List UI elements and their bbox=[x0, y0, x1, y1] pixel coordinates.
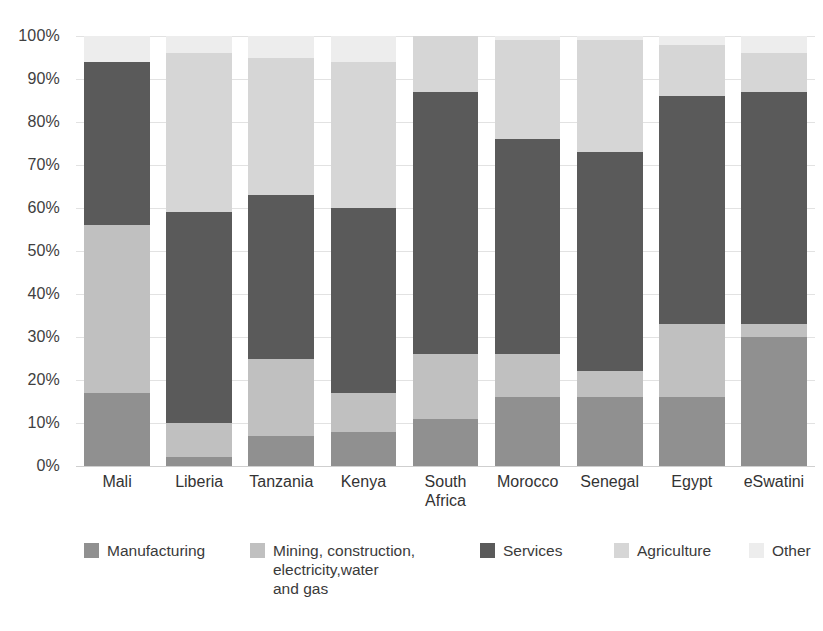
y-axis-tick-label: 50% bbox=[27, 242, 60, 260]
y-axis-tick-label: 20% bbox=[27, 371, 60, 389]
y-axis-tick-label: 30% bbox=[27, 328, 60, 346]
bar-segment[interactable] bbox=[84, 36, 150, 62]
bar-segment[interactable] bbox=[577, 371, 643, 397]
bar-group[interactable] bbox=[331, 36, 397, 466]
x-axis: MaliLiberiaTanzaniaKenyaSouth AfricaMoro… bbox=[76, 472, 815, 522]
legend-item[interactable]: Other bbox=[749, 541, 811, 560]
x-axis-tick-label: eSwatini bbox=[733, 472, 815, 491]
x-axis-tick-label: Tanzania bbox=[240, 472, 322, 491]
bar-segment[interactable] bbox=[495, 139, 561, 354]
bar-segment[interactable] bbox=[659, 397, 725, 466]
bar-segment[interactable] bbox=[741, 36, 807, 53]
legend-swatch-icon bbox=[480, 543, 495, 558]
bar-segment[interactable] bbox=[248, 436, 314, 466]
bar-segment[interactable] bbox=[741, 53, 807, 92]
legend-swatch-icon bbox=[614, 543, 629, 558]
bar-group[interactable] bbox=[659, 36, 725, 466]
x-axis-tick-label: South Africa bbox=[404, 472, 486, 510]
legend-swatch-icon bbox=[84, 543, 99, 558]
bar-segment[interactable] bbox=[495, 36, 561, 40]
bar-segment[interactable] bbox=[741, 92, 807, 324]
x-axis-tick-label: Egypt bbox=[651, 472, 733, 491]
chart-legend: ManufacturingMining, construction, elect… bbox=[84, 541, 814, 621]
bar-segment[interactable] bbox=[166, 53, 232, 212]
bar-segment[interactable] bbox=[413, 36, 479, 92]
bar-segment[interactable] bbox=[166, 212, 232, 423]
legend-item[interactable]: Mining, construction, electricity,water … bbox=[250, 541, 415, 598]
bar-group[interactable] bbox=[495, 36, 561, 466]
bar-segment[interactable] bbox=[495, 40, 561, 139]
bar-segment[interactable] bbox=[741, 324, 807, 337]
y-axis-tick-label: 60% bbox=[27, 199, 60, 217]
y-axis: 0%10%20%30%40%50%60%70%80%90%100% bbox=[0, 36, 70, 466]
bar-segment[interactable] bbox=[248, 359, 314, 436]
y-axis-tick-label: 80% bbox=[27, 113, 60, 131]
bar-segment[interactable] bbox=[413, 354, 479, 419]
bar-segment[interactable] bbox=[659, 36, 725, 45]
y-axis-tick-label: 10% bbox=[27, 414, 60, 432]
x-axis-tick-label: Senegal bbox=[569, 472, 651, 491]
bar-segment[interactable] bbox=[659, 45, 725, 97]
legend-item[interactable]: Services bbox=[480, 541, 562, 560]
bar-segment[interactable] bbox=[248, 58, 314, 196]
bar-segment[interactable] bbox=[331, 432, 397, 466]
bar-group[interactable] bbox=[166, 36, 232, 466]
bar-segment[interactable] bbox=[577, 397, 643, 466]
bar-segment[interactable] bbox=[84, 225, 150, 393]
bar-segment[interactable] bbox=[577, 36, 643, 40]
y-axis-tick-label: 90% bbox=[27, 70, 60, 88]
bar-group[interactable] bbox=[84, 36, 150, 466]
bar-segment[interactable] bbox=[331, 62, 397, 208]
legend-label: Mining, construction, electricity,water … bbox=[273, 541, 415, 598]
x-axis-tick-label: Kenya bbox=[322, 472, 404, 491]
bar-segment[interactable] bbox=[659, 324, 725, 397]
bar-group[interactable] bbox=[577, 36, 643, 466]
legend-label: Agriculture bbox=[637, 541, 711, 560]
legend-label: Other bbox=[772, 541, 811, 560]
legend-item[interactable]: Manufacturing bbox=[84, 541, 205, 560]
legend-label: Services bbox=[503, 541, 562, 560]
bar-segment[interactable] bbox=[413, 419, 479, 466]
bar-segment[interactable] bbox=[741, 337, 807, 466]
y-axis-tick-label: 100% bbox=[18, 27, 60, 45]
bar-group[interactable] bbox=[741, 36, 807, 466]
bar-segment[interactable] bbox=[331, 393, 397, 432]
bar-segment[interactable] bbox=[413, 92, 479, 354]
bar-segment[interactable] bbox=[331, 208, 397, 393]
bar-segment[interactable] bbox=[577, 40, 643, 152]
bar-segment[interactable] bbox=[248, 195, 314, 358]
bar-segment[interactable] bbox=[166, 36, 232, 53]
bar-segment[interactable] bbox=[84, 393, 150, 466]
legend-swatch-icon bbox=[250, 543, 265, 558]
y-axis-tick-label: 70% bbox=[27, 156, 60, 174]
bar-segment[interactable] bbox=[577, 152, 643, 371]
stacked-bar-chart: 0%10%20%30%40%50%60%70%80%90%100% MaliLi… bbox=[0, 0, 823, 631]
plot-area bbox=[76, 36, 815, 466]
bar-segment[interactable] bbox=[248, 36, 314, 58]
bar-segment[interactable] bbox=[495, 397, 561, 466]
bar-segment[interactable] bbox=[84, 62, 150, 225]
x-axis-tick-label: Morocco bbox=[487, 472, 569, 491]
x-axis-tick-label: Liberia bbox=[158, 472, 240, 491]
gridline bbox=[76, 466, 815, 467]
legend-item[interactable]: Agriculture bbox=[614, 541, 711, 560]
bar-segment[interactable] bbox=[166, 423, 232, 457]
bar-group[interactable] bbox=[248, 36, 314, 466]
bar-segment[interactable] bbox=[495, 354, 561, 397]
bar-group[interactable] bbox=[413, 36, 479, 466]
bar-segment[interactable] bbox=[166, 457, 232, 466]
y-axis-tick-label: 0% bbox=[36, 457, 60, 475]
legend-swatch-icon bbox=[749, 543, 764, 558]
bar-series-container bbox=[76, 36, 815, 466]
legend-label: Manufacturing bbox=[107, 541, 205, 560]
x-axis-tick-label: Mali bbox=[76, 472, 158, 491]
y-axis-tick-label: 40% bbox=[27, 285, 60, 303]
bar-segment[interactable] bbox=[659, 96, 725, 324]
bar-segment[interactable] bbox=[331, 36, 397, 62]
